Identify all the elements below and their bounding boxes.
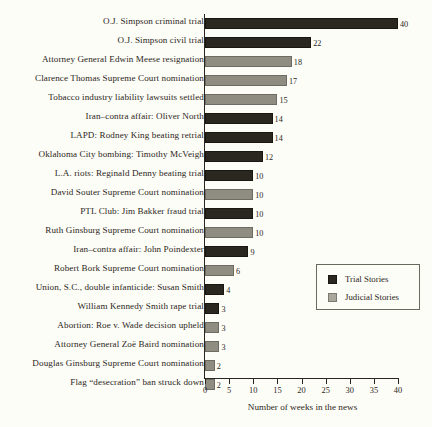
bar-value-label: 9 [250, 248, 254, 257]
bar-judicial [205, 265, 234, 276]
bar-track: 12 [205, 151, 405, 162]
bar-track: 9 [205, 246, 405, 257]
x-axis-tick [302, 378, 303, 384]
x-axis-tick-label: 5 [227, 386, 231, 396]
bar-track: 3 [205, 322, 405, 333]
bar-category-label: PTL Club: Jim Bakker fraud trial [4, 205, 204, 218]
x-axis-tick [326, 378, 327, 384]
x-axis-tick [350, 378, 351, 384]
bar-judicial [205, 94, 277, 105]
bar-row: O.J. Simpson criminal trial40 [0, 14, 432, 33]
bar-category-label: David Souter Supreme Court nomination [4, 186, 204, 199]
bar-category-label: Tobacco industry liability lawsuits sett… [4, 91, 204, 104]
bar-rows: O.J. Simpson criminal trial40O.J. Simpso… [0, 14, 432, 394]
bar-category-label: Douglas Ginsburg Supreme Court nominatio… [4, 357, 204, 370]
bar-value-label: 3 [221, 343, 225, 352]
bar-judicial [205, 189, 253, 200]
bar-track: 10 [205, 189, 405, 200]
x-axis-tick [253, 378, 254, 384]
bar-row: Abortion: Roe v. Wade decision upheld3 [0, 318, 432, 337]
legend-swatch-judicial-icon [328, 293, 337, 302]
x-axis-tick [398, 378, 399, 384]
bar-row: Iran–contra affair: John Poindexter9 [0, 242, 432, 261]
bar-value-label: 10 [255, 172, 263, 181]
bar-track: 2 [205, 360, 405, 371]
bar-category-label: Iran–contra affair: Oliver North [4, 110, 204, 123]
bar-row: Tobacco industry liability lawsuits sett… [0, 90, 432, 109]
bar-category-label: Oklahoma City bombing: Timothy McVeigh [4, 148, 204, 161]
bar-row: Douglas Ginsburg Supreme Court nominatio… [0, 356, 432, 375]
bar-value-label: 10 [255, 229, 263, 238]
x-axis-tick [205, 378, 206, 384]
bar-trial [205, 246, 248, 257]
bar-trial [205, 113, 273, 124]
x-axis-tick [374, 378, 375, 384]
bar-category-label: Ruth Ginsburg Supreme Court nomination [4, 224, 204, 237]
bar-value-label: 2 [217, 381, 221, 390]
legend-swatch-trial-icon [328, 275, 337, 284]
bar-category-label: Flag “desecration” ban struck down [4, 376, 204, 389]
x-axis-tick-label: 25 [321, 386, 329, 396]
bar-row: O.J. Simpson civil trial22 [0, 33, 432, 52]
bar-category-label: O.J. Simpson criminal trial [4, 15, 204, 28]
bar-value-label: 17 [289, 77, 297, 86]
bar-judicial [205, 227, 253, 238]
bar-value-label: 3 [221, 324, 225, 333]
legend-label-judicial: Judicial Stories [345, 292, 399, 303]
y-axis-line [204, 14, 205, 379]
bar-value-label: 10 [255, 210, 263, 219]
bar-row: Attorney General Edwin Meese resignation… [0, 52, 432, 71]
bar-track: 17 [205, 75, 405, 86]
bar-value-label: 40 [400, 20, 408, 29]
bar-trial [205, 132, 273, 143]
x-axis-tick-label: 10 [249, 386, 257, 396]
bar-value-label: 15 [279, 96, 287, 105]
bar-value-label: 14 [275, 115, 283, 124]
bar-row: Clarence Thomas Supreme Court nomination… [0, 71, 432, 90]
bar-value-label: 3 [221, 305, 225, 314]
bar-category-label: Attorney General Edwin Meese resignation [4, 53, 204, 66]
chart-legend: Trial Stories Judicial Stories [316, 264, 420, 310]
bar-track: 40 [205, 18, 405, 29]
bar-track: 14 [205, 113, 405, 124]
bar-category-label: LAPD: Rodney King beating retrial [4, 129, 204, 142]
bar-value-label: 22 [313, 39, 321, 48]
bar-track: 10 [205, 170, 405, 181]
bar-track: 10 [205, 208, 405, 219]
bar-judicial [205, 56, 292, 67]
bar-category-label: William Kennedy Smith rape trial [4, 300, 204, 313]
bar-track: 10 [205, 227, 405, 238]
x-axis-tick [277, 378, 278, 384]
bar-track: 14 [205, 132, 405, 143]
x-axis-tick-label: 15 [273, 386, 281, 396]
bar-row: L.A. riots: Reginald Denny beating trial… [0, 166, 432, 185]
bar-category-label: Abortion: Roe v. Wade decision upheld [4, 319, 204, 332]
bar-track: 15 [205, 94, 405, 105]
bar-value-label: 18 [294, 58, 302, 67]
bar-row: PTL Club: Jim Bakker fraud trial10 [0, 204, 432, 223]
x-axis-tick [229, 378, 230, 384]
bar-trial [205, 303, 219, 314]
bar-trial [205, 284, 224, 295]
bar-trial [205, 151, 263, 162]
bar-row: David Souter Supreme Court nomination10 [0, 185, 432, 204]
bar-track: 22 [205, 37, 405, 48]
legend-item-judicial: Judicial Stories [328, 290, 399, 304]
bar-judicial [205, 322, 219, 333]
bar-category-label: O.J. Simpson civil trial [4, 34, 204, 47]
bar-value-label: 6 [236, 267, 240, 276]
bar-trial [205, 170, 253, 181]
bar-category-label: Union, S.C., double infanticide: Susan S… [4, 281, 204, 294]
bar-trial [205, 18, 398, 29]
bar-row: LAPD: Rodney King beating retrial14 [0, 128, 432, 147]
bar-track: 18 [205, 56, 405, 67]
x-axis-tick-label: 20 [297, 386, 305, 396]
bar-judicial [205, 341, 219, 352]
chart-figure: O.J. Simpson criminal trial40O.J. Simpso… [0, 0, 432, 427]
bar-row: Oklahoma City bombing: Timothy McVeigh12 [0, 147, 432, 166]
bar-value-label: 12 [265, 153, 273, 162]
bar-track: 3 [205, 341, 405, 352]
bar-value-label: 4 [226, 286, 230, 295]
bar-row: Iran–contra affair: Oliver North14 [0, 109, 432, 128]
bar-category-label: Clarence Thomas Supreme Court nomination [4, 72, 204, 85]
